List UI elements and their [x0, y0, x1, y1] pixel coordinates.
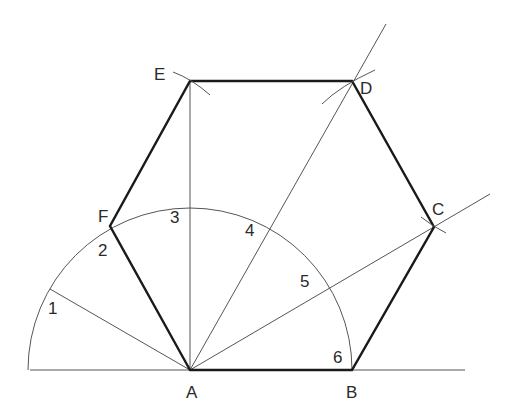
vertex-label-D: D	[360, 79, 372, 98]
vertex-label-F: F	[98, 207, 108, 226]
radial-line-4-to-D	[190, 24, 386, 370]
division-label-4: 4	[245, 221, 254, 240]
vertex-label-B: B	[346, 383, 357, 402]
vertex-label-C: C	[432, 200, 444, 219]
vertex-label-E: E	[154, 65, 165, 84]
vertex-label-A: A	[186, 383, 198, 402]
division-label-6: 6	[333, 348, 342, 367]
division-label-2: 2	[98, 241, 107, 260]
division-label-3: 3	[170, 208, 179, 227]
division-label-5: 5	[300, 272, 309, 291]
hexagon-construction-diagram: A B C D E F 1 2 3 4 5 6	[0, 0, 515, 414]
radial-line-1	[50, 289, 190, 370]
arc-mark-E	[173, 72, 210, 95]
division-label-1: 1	[48, 299, 57, 318]
radial-line-5-to-C	[190, 194, 490, 370]
